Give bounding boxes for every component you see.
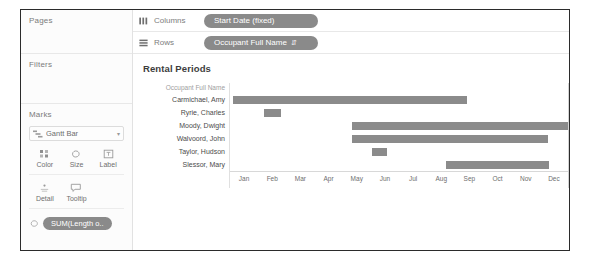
- row-label[interactable]: Walvoord, John: [143, 132, 229, 145]
- rows-pill-label: Occupant Full Name: [214, 38, 287, 47]
- worksheet-main-area: Columns Start Date (fixed) Rows Occupant…: [133, 10, 569, 250]
- marks-properties-row-1: Color Size: [29, 148, 124, 175]
- gantt-row: [230, 106, 568, 119]
- gantt-bar[interactable]: [372, 148, 387, 156]
- marks-card: Marks Gantt Bar ▾: [21, 104, 132, 250]
- marks-title: Marks: [29, 110, 124, 120]
- gantt-row: [230, 119, 568, 132]
- x-axis: JanFebMarAprMayJunJulAugSepOctNovDec: [230, 171, 568, 188]
- columns-shelf[interactable]: Columns Start Date (fixed): [133, 10, 569, 32]
- x-axis-tick: Jun: [380, 175, 390, 182]
- x-axis-tick: Dec: [548, 175, 560, 182]
- marks-size-button[interactable]: Size: [61, 148, 93, 169]
- filters-title: Filters: [29, 60, 124, 70]
- marks-properties-spacer: [92, 182, 124, 203]
- label-icon: [102, 148, 115, 159]
- gantt-bar[interactable]: [264, 109, 281, 117]
- x-axis-tick: Sep: [464, 175, 476, 182]
- columns-shelf-label: Columns: [154, 16, 198, 25]
- row-label[interactable]: Carmichael, Amy: [143, 93, 229, 106]
- gantt-chart: Occupant Full Name Carmichael, Amy Ryrie…: [143, 83, 569, 188]
- marks-size-pill-row: SUM(Length o..: [29, 217, 124, 230]
- size-icon: [70, 148, 83, 159]
- marks-size-pill[interactable]: SUM(Length o..: [43, 217, 112, 230]
- marks-properties-row-2: Detail Tooltip: [29, 182, 124, 209]
- rows-icon: [139, 38, 148, 47]
- marks-tooltip-label: Tooltip: [66, 195, 86, 203]
- marks-tooltip-button[interactable]: Tooltip: [61, 182, 93, 203]
- marks-label-label: Label: [100, 161, 117, 169]
- row-field-caption: Occupant Full Name: [143, 83, 229, 93]
- marks-color-label: Color: [36, 161, 53, 169]
- x-axis-tick: May: [351, 175, 363, 182]
- gantt-bar[interactable]: [352, 122, 568, 130]
- gantt-row: [230, 158, 568, 171]
- x-axis-tick: Jul: [409, 175, 417, 182]
- x-axis-tick: Jan: [239, 175, 249, 182]
- tableau-worksheet-window: Pages Filters Marks Gantt Bar ▾: [20, 9, 570, 251]
- chevron-down-icon[interactable]: ▾: [117, 131, 120, 137]
- rows-shelf[interactable]: Rows Occupant Full Name ⇵: [133, 32, 569, 54]
- gantt-row: [230, 93, 568, 106]
- rows-shelf-label: Rows: [154, 38, 198, 47]
- x-axis-tick: Oct: [493, 175, 503, 182]
- visualization-pane: Rental Periods Occupant Full Name Carmic…: [133, 54, 569, 250]
- marks-detail-button[interactable]: Detail: [29, 182, 61, 203]
- mark-type-label: Gantt Bar: [46, 129, 114, 138]
- size-icon: [29, 219, 40, 229]
- gantt-bar[interactable]: [446, 161, 549, 169]
- x-axis-tick: Feb: [267, 175, 278, 182]
- x-axis-tick: Nov: [520, 175, 532, 182]
- columns-icon: [139, 16, 148, 25]
- mark-type-dropdown[interactable]: Gantt Bar ▾: [29, 126, 124, 141]
- rows-pill-occupant-full-name[interactable]: Occupant Full Name ⇵: [204, 36, 318, 50]
- columns-pill-start-date[interactable]: Start Date (fixed): [204, 14, 318, 28]
- tooltip-icon: [70, 182, 83, 193]
- gantt-row: [230, 132, 568, 145]
- row-label[interactable]: Taylor, Hudson: [143, 145, 229, 158]
- detail-icon: [38, 182, 51, 193]
- gantt-bar-icon: [33, 129, 43, 138]
- marks-label-button[interactable]: Label: [92, 148, 124, 169]
- x-axis-tick: Mar: [295, 175, 306, 182]
- marks-size-label: Size: [70, 161, 84, 169]
- filters-card[interactable]: Filters: [21, 54, 132, 104]
- x-axis-tick: Apr: [324, 175, 334, 182]
- plot-area: JanFebMarAprMayJunJulAugSepOctNovDec: [229, 83, 569, 188]
- row-label[interactable]: Ryrie, Charles: [143, 106, 229, 119]
- x-axis-tick: Aug: [435, 175, 447, 182]
- pages-card[interactable]: Pages: [21, 10, 132, 54]
- gantt-row: [230, 145, 568, 158]
- marks-color-button[interactable]: Color: [29, 148, 61, 169]
- plot-top-band: [230, 83, 568, 93]
- gantt-bar[interactable]: [233, 96, 466, 104]
- sort-ascending-icon[interactable]: ⇵: [291, 39, 297, 47]
- gantt-bar[interactable]: [352, 135, 548, 143]
- marks-detail-label: Detail: [36, 195, 54, 203]
- color-icon: [38, 148, 51, 159]
- row-headers: Occupant Full Name Carmichael, Amy Ryrie…: [143, 83, 229, 188]
- left-shelf-panel: Pages Filters Marks Gantt Bar ▾: [21, 10, 133, 250]
- page-title: Rental Periods: [143, 63, 569, 74]
- row-label[interactable]: Slessor, Mary: [143, 158, 229, 171]
- row-label[interactable]: Moody, Dwight: [143, 119, 229, 132]
- pages-title: Pages: [29, 16, 124, 26]
